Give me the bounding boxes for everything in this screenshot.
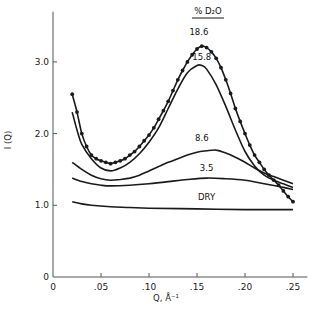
data-point-marker bbox=[243, 132, 247, 136]
data-point-marker bbox=[282, 189, 286, 193]
data-point-marker bbox=[224, 78, 228, 82]
x-tick-label: .10 bbox=[142, 282, 157, 292]
data-point-marker bbox=[104, 160, 108, 164]
data-point-marker bbox=[99, 159, 103, 163]
data-point-marker bbox=[286, 195, 290, 199]
data-point-marker bbox=[248, 143, 252, 147]
data-point-marker bbox=[80, 132, 84, 136]
x-axis-title: Q, Å⁻¹ bbox=[153, 292, 179, 303]
data-point-marker bbox=[152, 126, 156, 130]
data-point-marker bbox=[200, 44, 204, 48]
data-point-marker bbox=[171, 89, 175, 93]
x-tick-label: .15 bbox=[190, 282, 204, 292]
data-point-marker bbox=[70, 92, 74, 96]
y-tick-label: 0 bbox=[43, 272, 49, 282]
data-point-marker bbox=[114, 160, 118, 164]
x-tick-label: .20 bbox=[238, 282, 253, 292]
curve-label-8-6: 8.6 bbox=[195, 133, 209, 143]
data-point-marker bbox=[258, 160, 262, 164]
data-point-marker bbox=[219, 66, 223, 70]
data-point-marker bbox=[118, 159, 122, 163]
data-point-marker bbox=[176, 78, 180, 82]
data-point-marker bbox=[229, 92, 233, 96]
data-point-marker bbox=[195, 47, 199, 51]
x-tick-label: .05 bbox=[94, 282, 108, 292]
data-point-marker bbox=[85, 145, 89, 149]
data-point-marker bbox=[123, 157, 127, 161]
curve-15-8 bbox=[72, 65, 293, 188]
data-point-marker bbox=[238, 120, 242, 124]
x-tick-label: .25 bbox=[286, 282, 300, 292]
data-point-marker bbox=[147, 133, 151, 137]
data-point-marker bbox=[186, 60, 190, 64]
data-point-marker bbox=[181, 69, 185, 73]
curve-label-3-5: 3.5 bbox=[200, 163, 214, 173]
data-point-marker bbox=[162, 109, 166, 113]
data-point-marker bbox=[253, 153, 257, 157]
curve-label-dry: DRY bbox=[198, 192, 216, 202]
y-tick-label: 2.0 bbox=[35, 129, 50, 139]
data-point-marker bbox=[214, 56, 218, 60]
curve-dry bbox=[72, 202, 293, 210]
data-point-marker bbox=[262, 168, 266, 172]
data-point-marker bbox=[142, 139, 146, 143]
data-point-marker bbox=[109, 162, 113, 166]
curve-8-6 bbox=[72, 150, 293, 184]
data-point-marker bbox=[166, 99, 170, 103]
y-tick-label: 3.0 bbox=[35, 57, 50, 67]
data-point-marker bbox=[133, 150, 137, 154]
curve-label-18-6: 18.6 bbox=[189, 27, 208, 37]
data-point-marker bbox=[205, 46, 209, 50]
data-point-marker bbox=[157, 117, 161, 121]
data-point-marker bbox=[234, 107, 238, 111]
curves bbox=[70, 44, 295, 209]
legend-title: % D₂O bbox=[194, 6, 222, 16]
x-tick-label: 0 bbox=[50, 282, 56, 292]
saxs-intensity-chart: 0.05.10.15.20.2501.02.03.0 18.615.88.63.… bbox=[0, 0, 318, 321]
data-point-marker bbox=[138, 145, 142, 149]
data-point-marker bbox=[75, 110, 79, 114]
y-axis-title: I (Q) bbox=[3, 131, 13, 150]
data-point-marker bbox=[94, 157, 98, 161]
data-point-marker bbox=[128, 153, 132, 157]
axes: 0.05.10.15.20.2501.02.03.0 bbox=[35, 12, 308, 292]
data-point-marker bbox=[291, 200, 295, 204]
curve-label-15-8: 15.8 bbox=[192, 52, 211, 62]
y-tick-label: 1.0 bbox=[35, 200, 50, 210]
